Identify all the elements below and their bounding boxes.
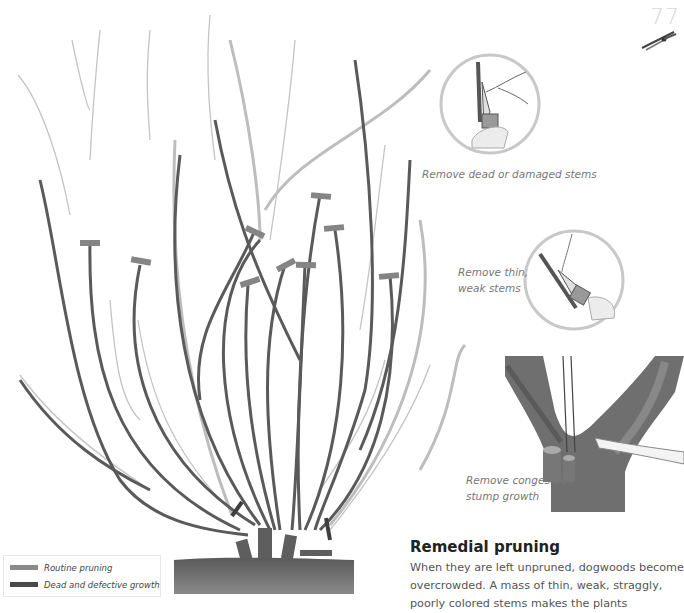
caption-dead-stems: Remove dead or damaged stems xyxy=(422,166,597,182)
dead-growth-swatch xyxy=(10,582,38,587)
section-title: Remedial pruning xyxy=(410,538,684,556)
caption-thin-stems: Remove thin, weak stems xyxy=(458,264,528,296)
inset-dead-stems xyxy=(438,52,542,156)
legend-item-routine: Routine pruning xyxy=(10,559,160,576)
caption-stump-growth: Remove congested stump growth xyxy=(466,472,567,504)
legend-item-dead: Dead and defective growth xyxy=(10,576,160,593)
page-number: 77 xyxy=(650,4,680,29)
section-body: When they are left unpruned, dogwoods be… xyxy=(410,559,684,613)
inset-thin-stems xyxy=(522,228,626,332)
remedial-pruning-section: Remedial pruning When they are left unpr… xyxy=(410,538,684,613)
shrub-illustration xyxy=(0,0,470,605)
routine-pruning-swatch xyxy=(10,565,38,570)
soil-mound xyxy=(174,558,354,594)
pruning-shears-icon xyxy=(640,28,680,52)
legend: Routine pruning Dead and defective growt… xyxy=(3,555,161,597)
